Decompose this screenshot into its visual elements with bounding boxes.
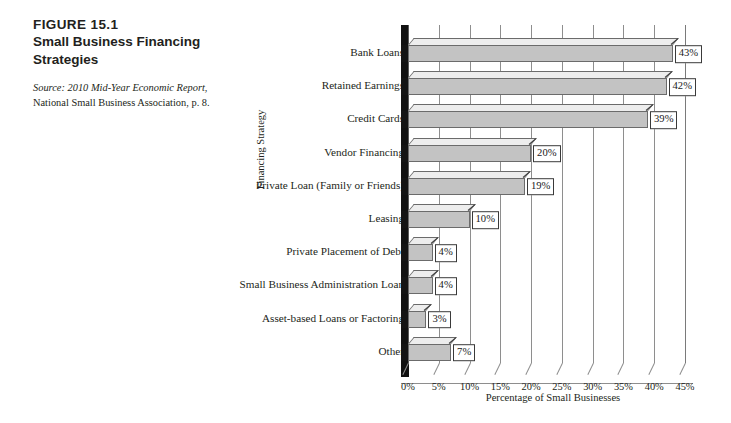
figure-title-line-2: Strategies xyxy=(33,52,98,67)
x-tick-10: 10% xyxy=(460,381,479,392)
bar-left-cap xyxy=(401,311,408,328)
x-axis-title: Percentage of Small Businesses xyxy=(408,392,698,403)
x-tick-40: 40% xyxy=(645,381,664,392)
x-tick-35: 35% xyxy=(614,381,633,392)
x-tick-15: 15% xyxy=(491,381,510,392)
bar[interactable] xyxy=(408,344,451,361)
bar-top-face xyxy=(408,138,537,145)
x-tick-45: 45% xyxy=(675,381,694,392)
figure-source-note: Source: 2010 Mid-Year Economic Report, N… xyxy=(33,81,218,111)
category-label-credit-cards: Credit Cards xyxy=(347,114,404,125)
figure-title-line-1: Small Business Financing xyxy=(33,34,200,49)
category-label-vendor-financing: Vendor Financing xyxy=(324,147,404,158)
x-tick-30: 30% xyxy=(583,381,602,392)
bar[interactable] xyxy=(408,178,525,195)
x-tick-20: 20% xyxy=(522,381,541,392)
bar-chart: Financing Strategy Bank LoansRetained Ea… xyxy=(218,14,723,414)
source-report-title: 2010 Mid-Year Economic Report xyxy=(65,82,205,93)
category-label-leasing: Leasing xyxy=(369,213,404,224)
figure-caption-block: FIGURE 15.1 Small Business Financing Str… xyxy=(33,16,218,110)
bar-left-cap xyxy=(401,78,408,95)
bar-left-cap xyxy=(401,344,408,361)
category-label-private-placement-of-debt: Private Placement of Debt xyxy=(286,247,404,258)
x-tick-0: 0% xyxy=(401,381,415,392)
bar[interactable] xyxy=(408,277,433,294)
bar[interactable] xyxy=(408,45,673,62)
bar-left-cap xyxy=(401,45,408,62)
bar[interactable] xyxy=(408,145,531,162)
bar-left-cap xyxy=(401,145,408,162)
source-label: Source: xyxy=(33,82,65,93)
bar-value-label: 4% xyxy=(435,278,457,296)
category-label-private-loan-family-or-friends: Private Loan (Family or Friends) xyxy=(256,180,404,191)
bar[interactable] xyxy=(408,78,667,95)
plot-area: 43%42%39%20%19%10%4%4%3%7% xyxy=(408,25,693,369)
gridline-45 xyxy=(685,25,686,363)
bar-top-face xyxy=(408,38,679,45)
bar-value-label: 43% xyxy=(675,45,702,63)
bar-value-label: 20% xyxy=(533,145,560,163)
bar[interactable] xyxy=(408,111,648,128)
x-tick-25: 25% xyxy=(552,381,571,392)
bar-top-face xyxy=(408,171,531,178)
bar-left-cap xyxy=(401,277,408,294)
bar-value-label: 19% xyxy=(527,178,554,196)
bar-value-label: 42% xyxy=(669,78,696,96)
bar-top-face xyxy=(408,71,672,78)
figure-number: FIGURE 15.1 xyxy=(33,16,218,33)
bar-value-label: 3% xyxy=(428,311,450,329)
bar-top-face xyxy=(408,204,475,211)
bar-left-cap xyxy=(401,178,408,195)
x-tick-5: 5% xyxy=(432,381,446,392)
bar[interactable] xyxy=(408,244,433,261)
bar-value-label: 39% xyxy=(650,112,677,130)
category-label-bank-loans: Bank Loans xyxy=(350,47,404,58)
bar-value-label: 10% xyxy=(472,211,499,229)
category-label-retained-earnings: Retained Earnings xyxy=(322,81,404,92)
bar-top-face xyxy=(408,104,654,111)
category-axis-labels: Bank LoansRetained EarningsCredit CardsV… xyxy=(218,14,408,374)
bar-value-label: 7% xyxy=(453,344,475,362)
bar-left-cap xyxy=(401,211,408,228)
category-label-asset-based-loans-or-factoring: Asset-based Loans or Factoring xyxy=(262,313,404,324)
bar-value-label: 4% xyxy=(435,244,457,262)
figure-title: Small Business Financing Strategies xyxy=(33,33,218,68)
bar-left-cap xyxy=(401,111,408,128)
category-label-small-business-administration-loan: Small Business Administration Loan xyxy=(240,280,404,291)
bar-left-cap xyxy=(401,244,408,261)
bar[interactable] xyxy=(408,211,470,228)
bar[interactable] xyxy=(408,311,426,328)
x-axis-tick-labels: 0%5%10%15%20%25%30%35%40%45% xyxy=(408,369,708,409)
